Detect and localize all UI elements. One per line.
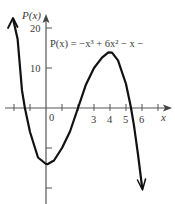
- x-axis-label: x: [160, 111, 166, 123]
- x-tick-label-5: 5: [123, 114, 128, 125]
- x-tick-label-4: 4: [107, 114, 113, 125]
- polynomial-graph: P(x) x P(x) = −x³ + 6x² − x − 20 10 0 3 …: [0, 0, 175, 204]
- x-tick-label-3: 3: [91, 114, 96, 125]
- y-tick-label-10: 10: [30, 63, 41, 74]
- x-tick-label-6: 6: [139, 114, 144, 125]
- equation-label: P(x) = −x³ + 6x² − x −: [50, 38, 143, 50]
- x-tick-label-0: 0: [49, 112, 54, 123]
- y-axis-label: P(x): [21, 9, 41, 22]
- curve-arrow-up-icon: [8, 18, 18, 28]
- y-tick-label-20: 20: [30, 23, 41, 34]
